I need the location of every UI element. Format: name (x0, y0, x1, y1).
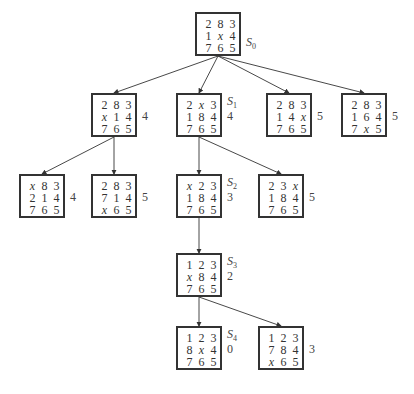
tree-edge-arrow (42, 137, 114, 174)
heuristic-value: 4 (142, 110, 148, 122)
puzzle-tile: 6 (196, 356, 207, 368)
state-index: 3 (233, 261, 237, 270)
puzzle-grid: 123x84765 (184, 259, 219, 295)
state-index: 4 (233, 334, 237, 343)
puzzle-tile: 6 (111, 123, 122, 135)
puzzle-tile: 5 (290, 356, 301, 368)
tree-edge-arrow (199, 297, 281, 326)
blank-tile: x (99, 204, 110, 216)
puzzle-tile: 5 (290, 204, 301, 216)
heuristic-value: 5 (317, 110, 323, 122)
puzzle-tile: 5 (227, 42, 238, 54)
heuristic-value: 3 (309, 343, 315, 355)
tree-edge-arrow (218, 56, 289, 93)
puzzle-tile: 5 (208, 283, 219, 295)
puzzle-tile: 6 (111, 204, 122, 216)
heuristic-value: 4 (227, 110, 233, 122)
puzzle-state-node: 123784x65 (258, 326, 304, 370)
puzzle-tile: 6 (278, 204, 289, 216)
puzzle-state-node: 23x184765 (258, 174, 304, 218)
puzzle-grid: 283x14765 (99, 99, 134, 135)
puzzle-tile: 6 (278, 356, 289, 368)
puzzle-tile: 6 (196, 283, 207, 295)
state-label: S0 (246, 36, 256, 53)
puzzle-tile: 6 (196, 204, 207, 216)
puzzle-tile: 5 (298, 123, 309, 135)
puzzle-tile: 5 (123, 204, 134, 216)
puzzle-state-node: 283x14765 (91, 93, 137, 137)
puzzle-grid: 23x184765 (266, 180, 301, 216)
puzzle-tile: 7 (274, 123, 285, 135)
puzzle-tile: 5 (208, 356, 219, 368)
puzzle-grid: 2x3184765 (184, 99, 219, 135)
puzzle-tile: 7 (184, 356, 195, 368)
state-index: 0 (252, 42, 256, 51)
puzzle-tile: 7 (184, 283, 195, 295)
heuristic-value: 3 (227, 191, 233, 203)
puzzle-tile: 6 (39, 204, 50, 216)
puzzle-tile: 5 (208, 204, 219, 216)
state-index: 1 (233, 101, 237, 110)
tree-edge-arrow (218, 56, 364, 93)
heuristic-value: 5 (309, 191, 315, 203)
puzzle-tile: 7 (184, 123, 195, 135)
puzzle-grid: 283714x65 (99, 180, 134, 216)
tree-edge-arrow (199, 137, 281, 174)
heuristic-value: 5 (392, 110, 398, 122)
puzzle-state-node: 283714x65 (91, 174, 137, 218)
puzzle-grid: 123784x65 (266, 332, 301, 368)
puzzle-tile: 5 (51, 204, 62, 216)
puzzle-grid: 28314x765 (274, 99, 309, 135)
puzzle-tile: 5 (373, 123, 384, 135)
puzzle-grid: 2831x4765 (203, 18, 238, 54)
heuristic-value: 4 (70, 191, 76, 203)
puzzle-grid: 2831647x5 (349, 99, 384, 135)
tree-edge-arrow (114, 56, 218, 93)
heuristic-value: 0 (227, 343, 233, 355)
blank-tile: x (361, 123, 372, 135)
puzzle-state-node: 28314x765 (266, 93, 312, 137)
puzzle-state-node: 123x84765 (176, 253, 222, 297)
puzzle-tile: 7 (266, 204, 277, 216)
puzzle-grid: 1238x4765 (184, 332, 219, 368)
puzzle-tile: 5 (208, 123, 219, 135)
blank-tile: x (266, 356, 277, 368)
puzzle-tile: 6 (215, 42, 226, 54)
puzzle-state-node: 2831x4765 (195, 12, 241, 56)
state-index: 2 (233, 182, 237, 191)
puzzle-tile: 7 (27, 204, 38, 216)
puzzle-tile: 7 (99, 123, 110, 135)
puzzle-tile: 6 (196, 123, 207, 135)
puzzle-state-node: 1238x4765 (176, 326, 222, 370)
heuristic-value: 2 (227, 270, 233, 282)
puzzle-state-node: x83214765 (19, 174, 65, 218)
heuristic-value: 5 (142, 191, 148, 203)
puzzle-state-node: 2831647x5 (341, 93, 387, 137)
puzzle-grid: x23184765 (184, 180, 219, 216)
puzzle-tile: 5 (123, 123, 134, 135)
puzzle-tile: 7 (184, 204, 195, 216)
puzzle-tile: 6 (286, 123, 297, 135)
puzzle-state-node: x23184765 (176, 174, 222, 218)
puzzle-state-node: 2x3184765 (176, 93, 222, 137)
puzzle-grid: x83214765 (27, 180, 62, 216)
puzzle-tile: 7 (349, 123, 360, 135)
puzzle-tile: 7 (203, 42, 214, 54)
